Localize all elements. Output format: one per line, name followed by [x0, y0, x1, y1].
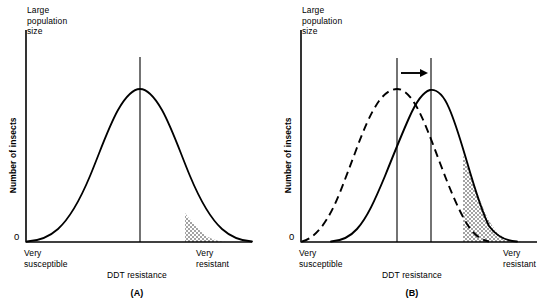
x-axis-left-label: Very susceptible	[299, 248, 343, 269]
y-axis-label: Number of insects	[8, 110, 19, 200]
original-distribution-curve	[302, 89, 489, 242]
x-axis-left-label: Very susceptible	[24, 248, 68, 269]
shift-arrow-icon	[401, 69, 428, 77]
large-population-size-label: Large population size	[302, 5, 342, 37]
x-axis-title: DDT resistance	[275, 270, 549, 281]
x-axis-right-label: Very resistant	[503, 248, 536, 269]
shifted-distribution-curve	[331, 90, 517, 242]
x-axis-title: DDT resistance	[0, 270, 274, 281]
panel-label-b: (B)	[275, 288, 549, 299]
y-origin-label: 0	[14, 232, 19, 243]
figure-ddt-resistance: Large population size 0 Number of insect…	[0, 0, 549, 304]
x-axis-right-label: Very resistant	[196, 248, 229, 269]
panel-label-a: (A)	[0, 288, 274, 299]
resistant-tail-shading	[463, 155, 525, 242]
y-axis-label: Number of insects	[283, 110, 294, 200]
large-population-size-label: Large population size	[27, 5, 67, 37]
panel-b: Large population size 0 Number of insect…	[275, 0, 549, 304]
y-origin-label: 0	[289, 232, 294, 243]
panel-a: Large population size 0 Number of insect…	[0, 0, 274, 304]
